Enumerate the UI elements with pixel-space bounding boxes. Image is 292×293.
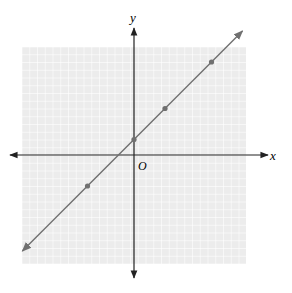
- origin-label: O: [138, 159, 147, 173]
- data-point: [162, 106, 167, 111]
- data-point: [131, 137, 136, 142]
- y-axis-label: y: [128, 10, 136, 25]
- coordinate-plane: y x O: [0, 0, 292, 293]
- data-point: [85, 183, 90, 188]
- data-point: [209, 59, 214, 64]
- x-axis-label: x: [269, 148, 276, 163]
